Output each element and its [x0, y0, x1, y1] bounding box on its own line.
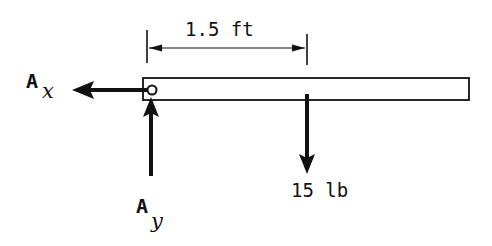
- force-ax-label: A x: [26, 69, 54, 103]
- dimension-arrowhead-right-icon: [292, 45, 305, 52]
- dimension-arrowhead-left-icon: [149, 45, 162, 52]
- svg-text:y: y: [150, 209, 164, 233]
- force-ay-label: A y: [136, 194, 164, 233]
- svg-text:A: A: [26, 69, 38, 93]
- load-arrow: [299, 94, 315, 174]
- pin-icon: [148, 86, 157, 95]
- free-body-diagram: 1.5 ft A x A y 15 lb: [0, 0, 492, 246]
- load-label: 15 lb: [291, 179, 348, 201]
- svg-text:A: A: [136, 194, 148, 218]
- svg-text:x: x: [42, 79, 54, 103]
- pin-support: [148, 86, 157, 95]
- dimension-label: 1.5 ft: [185, 18, 254, 40]
- force-ay-arrow: [143, 97, 159, 176]
- force-ax-arrow: [72, 81, 148, 99]
